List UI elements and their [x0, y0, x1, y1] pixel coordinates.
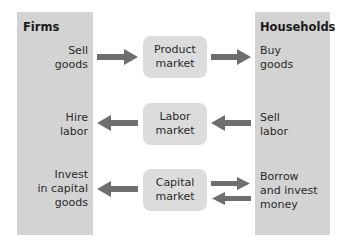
arrow-right-icon [211, 49, 251, 65]
arrow-left-icon [211, 115, 251, 131]
arrow-left-icon [97, 181, 138, 197]
flow-arrows [0, 0, 347, 252]
arrow-left-icon [212, 192, 251, 205]
arrow-right-icon [97, 49, 138, 65]
arrow-right-icon [211, 177, 250, 190]
arrow-left-icon [97, 115, 138, 131]
